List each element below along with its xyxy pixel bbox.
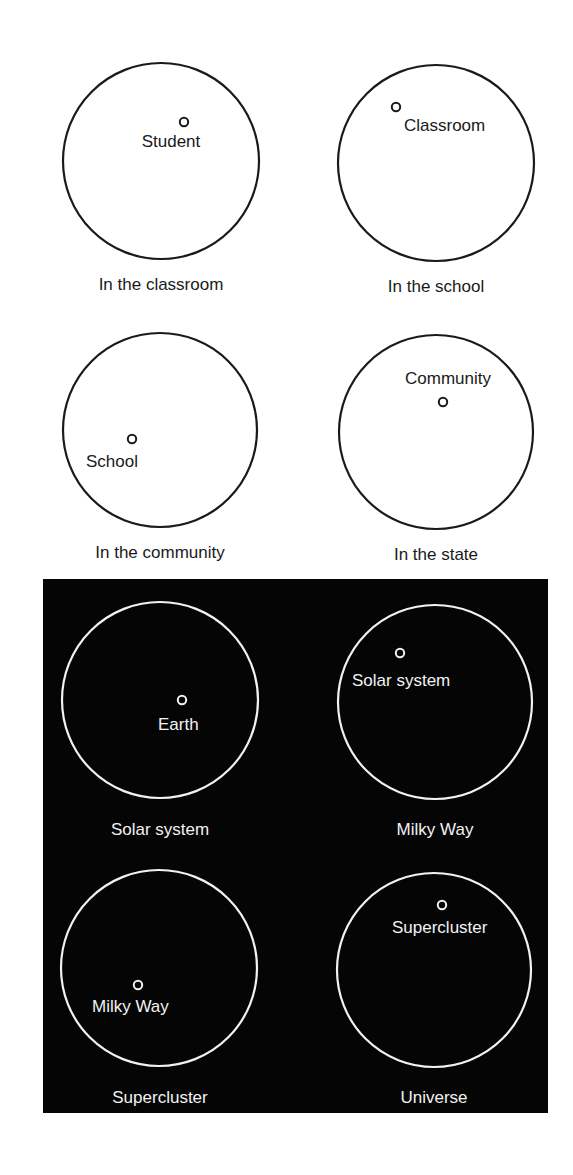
dot-label: Student <box>142 132 201 151</box>
dark-panel <box>43 579 548 1113</box>
panel-caption: In the classroom <box>99 275 224 294</box>
nested-scale-diagram: StudentIn the classroomClassroomIn the s… <box>0 0 573 1175</box>
dot-label: Supercluster <box>392 918 488 937</box>
dot-label: Milky Way <box>92 997 169 1016</box>
dot-label: Earth <box>158 715 199 734</box>
dot-label: Classroom <box>404 116 485 135</box>
panel-caption: In the school <box>388 277 484 296</box>
dot-label: Community <box>405 369 491 388</box>
panel-caption: Supercluster <box>112 1088 208 1107</box>
panel-caption: Universe <box>400 1088 467 1107</box>
panel-caption: In the community <box>95 543 225 562</box>
panel-caption: Solar system <box>111 820 209 839</box>
dot-label: School <box>86 452 138 471</box>
panel-caption: In the state <box>394 545 478 564</box>
dot-label: Solar system <box>352 671 450 690</box>
panel-caption: Milky Way <box>397 820 474 839</box>
